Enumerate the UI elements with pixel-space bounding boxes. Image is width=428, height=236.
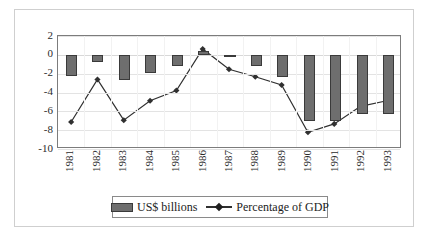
line-marker <box>68 119 74 125</box>
y-tick-label: -6 <box>13 105 53 116</box>
legend-entry-line: Percentage of GDP <box>206 200 329 215</box>
x-tick-label: 1985 <box>169 150 183 172</box>
bar <box>145 55 156 73</box>
x-tick-label: 1982 <box>90 150 104 172</box>
x-tick-label: 1989 <box>275 150 289 172</box>
legend-entry-bars: US$ billions <box>111 200 197 215</box>
bar-swatch-icon <box>111 203 133 212</box>
bar <box>304 55 315 121</box>
vertical-gridline <box>296 36 297 147</box>
line-marker <box>279 82 285 88</box>
vertical-gridline <box>137 36 138 147</box>
y-axis: 20-2-4-6-8-10 <box>9 35 53 148</box>
vertical-gridline <box>243 36 244 147</box>
y-tick-label: 0 <box>13 48 53 59</box>
x-tick-label: 1991 <box>328 150 342 172</box>
x-tick-label: 1983 <box>116 150 130 172</box>
chart-legend: US$ billions Percentage of GDP <box>112 196 328 218</box>
x-tick-label: 1988 <box>248 150 262 172</box>
plot-area <box>57 35 401 148</box>
x-tick-label: 1990 <box>301 150 315 172</box>
bar <box>330 55 341 121</box>
x-tick-label: 1993 <box>381 150 395 172</box>
y-tick-label: -10 <box>13 143 53 154</box>
y-tick-label: -8 <box>13 124 53 135</box>
bar <box>66 55 77 77</box>
bar <box>119 55 130 80</box>
x-tick-label: 1986 <box>196 150 210 172</box>
legend-label-bars: US$ billions <box>137 200 197 215</box>
line-marker-icon <box>206 202 232 212</box>
x-tick-label: 1987 <box>222 150 236 172</box>
bar <box>92 55 103 63</box>
vertical-gridline <box>190 36 191 147</box>
bar <box>198 51 209 55</box>
bar <box>172 55 183 66</box>
x-tick-label: 1984 <box>143 150 157 172</box>
vertical-gridline <box>111 36 112 147</box>
bar <box>277 55 288 78</box>
bar <box>224 55 235 58</box>
line-marker <box>94 76 100 82</box>
x-tick-label: 1992 <box>354 150 368 172</box>
x-axis: 1981198219831984198519861987198819891990… <box>57 150 401 196</box>
bar <box>357 55 368 114</box>
vertical-gridline <box>84 36 85 147</box>
chart-figure: 20-2-4-6-8-10 19811982198319841985198619… <box>0 0 428 236</box>
y-tick-label: -2 <box>13 67 53 78</box>
y-tick-label: 2 <box>13 30 53 41</box>
vertical-gridline <box>376 36 377 147</box>
bar <box>251 55 262 66</box>
vertical-gridline <box>349 36 350 147</box>
vertical-gridline <box>323 36 324 147</box>
vertical-gridline <box>164 36 165 147</box>
y-tick-label: -4 <box>13 86 53 97</box>
vertical-gridline <box>217 36 218 147</box>
legend-label-line: Percentage of GDP <box>236 200 329 215</box>
bar <box>383 55 394 114</box>
vertical-gridline <box>270 36 271 147</box>
x-tick-label: 1981 <box>63 150 77 172</box>
